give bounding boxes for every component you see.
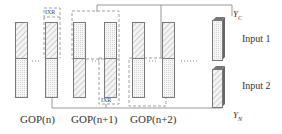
input-block-2	[213, 66, 226, 108]
gop-n2-label: GOP(n+2)	[130, 113, 177, 125]
input-block-1	[213, 17, 226, 61]
yc-label: YC	[233, 9, 242, 21]
input1-label: Input 1	[242, 33, 271, 44]
ixr-tag-top: IXR	[45, 9, 55, 15]
gop-n1-label: GOP(n+1)	[71, 113, 118, 125]
input2-label: Input 2	[242, 80, 271, 91]
gop-n-label: GOP(n)	[20, 113, 55, 125]
yn-label: YN	[233, 110, 242, 122]
gop-diagram: IXR IXR GOP(n) GOP(n+1) GOP(n+2) YC YN I…	[0, 0, 282, 134]
ixr-tag-bottom: IXR	[101, 97, 111, 103]
frame-bars	[16, 23, 175, 98]
